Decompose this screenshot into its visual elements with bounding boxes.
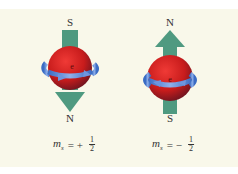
numerator: 1 (189, 136, 193, 144)
eq-fraction: 1 2 (89, 136, 95, 153)
right-bottom-pole-label: S (167, 112, 173, 124)
numerator: 1 (90, 136, 94, 144)
left-magnet-arrow-head (55, 92, 85, 112)
denominator: 2 (189, 145, 193, 153)
eq-symbol: m (152, 137, 160, 149)
right-magnet-arrow-head (155, 30, 185, 47)
denominator: 2 (90, 145, 94, 153)
left-electron-label: e (70, 62, 74, 71)
electron-spin-diagram (0, 0, 238, 174)
eq-subscript: s (160, 144, 163, 152)
eq-sign: = + (68, 139, 83, 151)
right-electron-label: e (168, 75, 172, 84)
left-bottom-pole-label: N (66, 112, 74, 124)
left-spin-equation: ms = + 1 2 (53, 136, 95, 153)
right-spin-equation: ms = − 1 2 (152, 136, 194, 153)
left-top-pole-label: S (67, 16, 73, 28)
right-electron (146, 30, 195, 114)
right-top-pole-label: N (166, 16, 174, 28)
eq-sign: = − (167, 139, 182, 151)
eq-symbol: m (53, 137, 61, 149)
eq-fraction: 1 2 (188, 136, 194, 153)
eq-subscript: s (61, 144, 64, 152)
left-electron (44, 30, 97, 112)
